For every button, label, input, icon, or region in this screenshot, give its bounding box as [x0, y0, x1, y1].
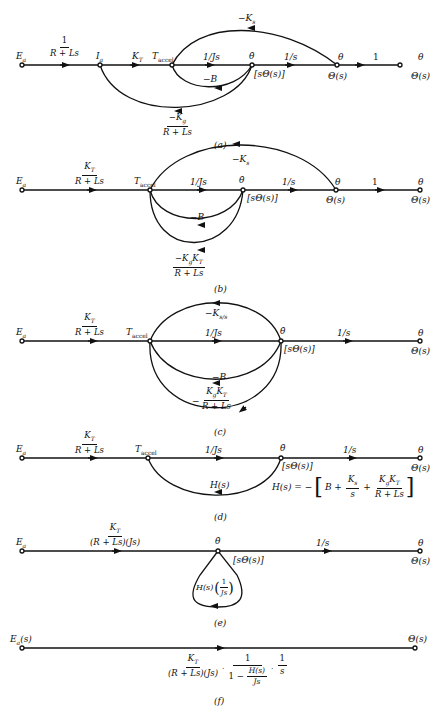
gain-1-over-js: 1/Js [205, 446, 222, 455]
node-theta-out-label: θ [418, 53, 423, 62]
gain-kt-over-r-plus-ls: KTR + Ls [75, 162, 104, 186]
gain-minus-ks: −Ks [232, 155, 249, 166]
node-s-theta-label: [sΘ(s)] [254, 70, 285, 79]
caption-d: (d) [214, 512, 227, 522]
overall-transfer-function: KT(R + Ls)(Js) · 11 −H(s)Js · 1s [168, 654, 287, 687]
node-taccel-label: Taccel [134, 177, 156, 188]
node-theta-s-out-label: Θ(s) [411, 72, 430, 81]
gain-1-over-s: 1/s [316, 539, 329, 548]
gain-minus-ks: −Ks [238, 14, 255, 25]
gain-1-over-js: 1/Js [205, 329, 222, 338]
diagram-f-graph [20, 646, 417, 650]
caption-c: (c) [214, 427, 226, 437]
equation-lhs: H(s) = − [272, 482, 312, 492]
node-theta-s-label: Θ(s) [326, 196, 345, 205]
node-ea-label: Ea [16, 328, 26, 339]
node-ea-s-label: Ea(s) [10, 635, 32, 646]
node-ea-label: Ea [16, 538, 26, 549]
tf-term-3: 1s [278, 654, 287, 677]
gain-1-over-s: 1/s [282, 178, 295, 187]
signal-flow-graphs-canvas [0, 0, 440, 713]
node-ea-label: Ea [16, 52, 26, 63]
node-ia-label: Ia [96, 52, 103, 63]
equation-kg-kt-over-r-plus-ls: KgKTR + Ls [375, 475, 404, 499]
gain-minus-b: −B [212, 373, 226, 382]
gain-1-over-js: 1/Js [203, 53, 220, 62]
node-theta-dot-label: θ̇ [215, 537, 220, 546]
node-s-theta-label: [sΘ(s)] [282, 462, 313, 471]
node-theta-s-label: Θ(s) [408, 635, 427, 644]
gain-1-over-s: 1/s [343, 446, 356, 455]
node-theta-s-out-label: Θ(s) [411, 464, 430, 473]
equation-ks-over-s: Kss [346, 475, 359, 499]
tf-term-1: KT(R + Ls)(Js) [168, 654, 218, 678]
node-theta-s-out-label: Θ(s) [411, 347, 430, 356]
gain-kt-over-r-plus-ls: KTR + Ls [75, 313, 104, 337]
node-s-theta-label: [sΘ(s)] [284, 345, 315, 354]
node-ea-label: Ea [16, 445, 26, 456]
h-of-s-equation: H(s) = − [ B + Kss + KgKTR + Ls ] [272, 475, 414, 499]
node-theta-label: θ [335, 178, 340, 187]
node-theta-s-out-label: Θ(s) [411, 196, 430, 205]
node-theta-out-label: θ [418, 446, 423, 455]
node-theta-dot-label: θ̇ [280, 444, 285, 453]
gain-1-over-s: 1/s [337, 329, 350, 338]
node-theta-out-label: θ [418, 539, 423, 548]
caption-b: (b) [214, 284, 227, 294]
left-bracket: [ [314, 476, 323, 498]
gain-minus-kg-kt-over-r-plus-ls: −KgKTR + Ls [173, 254, 205, 278]
equation-plus: + [363, 482, 371, 492]
gain-h-of-s: H(s) [210, 481, 230, 490]
node-theta-out-label: θ [418, 178, 423, 187]
gain-minus-b: −B [190, 213, 204, 222]
gain-1-over-s: 1/s [284, 53, 297, 62]
gain-kt: KT [132, 52, 143, 63]
gain-one: 1 [373, 53, 379, 62]
gain-1-over-js: 1/Js [190, 178, 207, 187]
node-taccel-label: Taccel [152, 52, 174, 63]
node-theta-s-out-label: Θ(s) [411, 557, 430, 566]
node-s-theta-label: [sΘ(s)] [233, 556, 264, 565]
gain-kt-over-r-plus-ls-js: KT(R + Ls)(Js) [90, 523, 140, 547]
node-theta-s-label: Θ(s) [328, 72, 347, 81]
node-s-theta-label: [sΘ(s)] [247, 194, 278, 203]
node-theta-dot-label: θ̇ [280, 327, 285, 336]
gain-minus-b: −B [203, 75, 217, 84]
node-theta-out-label: θ [418, 329, 423, 338]
equation-b-term: B + [325, 482, 342, 492]
gain-minus-sign: − [192, 397, 200, 406]
node-theta-dot-label: θ̇ [249, 52, 254, 61]
self-loop-gain: H(s) ( 1Js ) [196, 578, 234, 597]
node-theta-label: θ [338, 53, 343, 62]
caption-f: (f) [214, 696, 224, 706]
node-taccel-label: Taccel [135, 445, 157, 456]
caption-e: (e) [214, 618, 226, 628]
gain-minus-ks-over-s: −Ks/s [205, 309, 227, 320]
gain-kg-kt-over-r-plus-ls: KgKTR + Ls [202, 387, 231, 411]
diagram-b-graph [20, 144, 422, 250]
right-bracket: ] [406, 476, 415, 498]
gain-minus-kg-over-r-plus-ls: −KgR + Ls [163, 113, 192, 137]
node-theta-dot-label: θ̇ [239, 176, 244, 185]
node-ea-label: Ea [16, 177, 26, 188]
gain-one: 1 [372, 178, 378, 187]
gain-kt-over-r-plus-ls: KTR + Ls [75, 431, 104, 455]
caption-a: (a) [214, 140, 226, 150]
node-taccel-label: Taccel [126, 328, 148, 339]
tf-term-2: 11 −H(s)Js [229, 654, 267, 687]
gain-1-over-r-plus-ls: 1R + Ls [50, 36, 79, 59]
